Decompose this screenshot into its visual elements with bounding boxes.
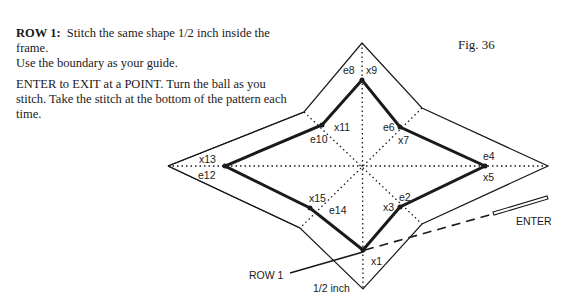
label-e2: e2 xyxy=(399,191,411,203)
point-x7 xyxy=(398,125,403,130)
label-x7: x7 xyxy=(398,134,409,146)
label-half-inch: 1/2 inch xyxy=(313,282,350,294)
label-e8: e8 xyxy=(343,64,355,76)
label-x11: x11 xyxy=(334,121,350,133)
label-x1: x1 xyxy=(371,255,382,267)
label-e10: e10 xyxy=(310,133,328,145)
needle-icon xyxy=(493,196,548,215)
point-x9 xyxy=(360,78,365,83)
row1-leader xyxy=(290,252,363,273)
label-x15: x15 xyxy=(309,192,326,204)
label-enter: ENTER xyxy=(516,215,552,227)
stitch-markers xyxy=(223,78,488,253)
label-x3: x3 xyxy=(383,201,394,213)
label-e14: e14 xyxy=(329,204,347,216)
enter-leader xyxy=(365,214,493,250)
stitch-diagram: e8 x9 x11 e10 e6 x7 x13 e12 e4 x5 x15 e1… xyxy=(0,0,564,303)
label-e4: e4 xyxy=(483,150,495,162)
label-e12: e12 xyxy=(198,169,216,181)
label-x5: x5 xyxy=(483,171,494,183)
point-x5 xyxy=(483,164,488,169)
point-x13 xyxy=(223,164,228,169)
point-x3 xyxy=(398,205,403,210)
callout-labels: ROW 1 ENTER 1/2 inch xyxy=(249,215,552,294)
point-x11 xyxy=(320,123,325,128)
label-e6: e6 xyxy=(383,121,395,133)
stitch-path xyxy=(225,80,485,250)
label-x13: x13 xyxy=(199,153,216,165)
point-x15 xyxy=(308,206,313,211)
label-row1: ROW 1 xyxy=(249,269,284,281)
label-x9: x9 xyxy=(366,64,377,76)
